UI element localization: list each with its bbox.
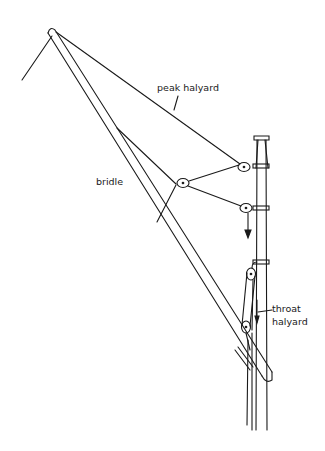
gaff-rig-diagram: peak halyard bridle throat halyard — [0, 0, 325, 451]
bridle-label: bridle — [96, 176, 123, 187]
throat-halyard-label-line2: halyard — [272, 316, 308, 327]
down-arrow-icon — [245, 213, 251, 238]
peak-halyard-leader — [174, 96, 178, 110]
leech-line — [22, 36, 52, 80]
peak-halyard-label: peak halyard — [157, 82, 219, 93]
diagram-drawing — [0, 0, 325, 451]
mast — [253, 136, 269, 430]
throat-halyard-label-line1: throat — [272, 303, 301, 314]
peak-halyard-line — [56, 32, 240, 164]
